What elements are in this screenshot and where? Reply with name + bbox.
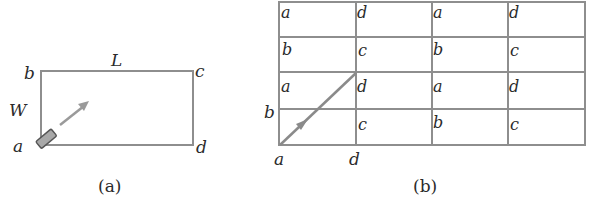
- width-label: W: [9, 100, 28, 120]
- grid-cell-label: c: [510, 41, 519, 60]
- grid-cell-label: b: [282, 40, 292, 59]
- grid-cell-label: b: [433, 113, 443, 132]
- grid-cell-label: c: [358, 41, 367, 60]
- grid-cell-label: c: [358, 115, 367, 134]
- caption-a: (a): [98, 176, 121, 196]
- rectangle-table: [41, 71, 193, 145]
- grid-cell-label: d: [509, 77, 519, 96]
- length-label: L: [110, 50, 122, 70]
- corner-label-c: c: [195, 61, 205, 81]
- outer-label-d: d: [349, 149, 360, 169]
- unfolded-grid: [279, 2, 585, 145]
- grid-cell-label: d: [357, 77, 367, 96]
- corner-label-d: d: [196, 137, 207, 157]
- grid-cell-label: c: [510, 115, 519, 134]
- grid-cell-label: a: [281, 77, 291, 96]
- panel-a: b L c W a d (a): [9, 50, 207, 196]
- grid-cell-label: d: [357, 3, 367, 22]
- diagram-canvas: b L c W a d (a) a d a d b c b c a d a d: [0, 0, 592, 209]
- outer-label-b: b: [264, 102, 275, 122]
- panel-b: a d a d b c b c a d a d c b c b a d (b): [264, 2, 585, 196]
- grid-cell-label: a: [433, 3, 443, 22]
- grid-cell-label: b: [433, 40, 443, 59]
- corner-label-b: b: [24, 63, 35, 83]
- caption-b: (b): [413, 176, 437, 196]
- corner-label-a: a: [13, 136, 23, 156]
- outer-label-a: a: [274, 149, 284, 169]
- grid-cell-label: a: [281, 3, 291, 22]
- grid-cell-label: d: [509, 3, 519, 22]
- grid-cell-label: a: [433, 77, 443, 96]
- motion-arrow-shaft: [60, 106, 84, 125]
